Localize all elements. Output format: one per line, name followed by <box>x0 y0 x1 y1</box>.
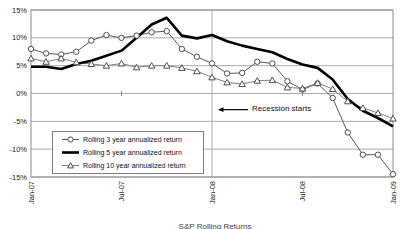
y-tick-label: 5% <box>16 61 27 70</box>
x-tick-label: Jul-07 <box>117 181 126 201</box>
data-point-marker-circle <box>43 51 48 56</box>
data-point-marker-circle <box>390 172 395 177</box>
data-point-marker-circle <box>270 61 275 66</box>
data-point-marker-triangle <box>209 74 215 80</box>
x-tick-label: Jul-08 <box>298 181 307 201</box>
data-point-marker-circle <box>179 46 184 51</box>
data-point-marker-circle <box>375 152 380 157</box>
legend-item-rolling-10-year: Rolling 10 year annualized return <box>62 159 203 172</box>
data-point-marker-circle <box>345 130 350 135</box>
x-tick-label: Jan-08 <box>208 181 217 204</box>
data-point-marker-circle <box>194 54 199 59</box>
legend-label: Rolling 5 year annualized return <box>83 146 182 159</box>
legend-item-rolling-5-year: Rolling 5 year annualized return <box>62 146 203 159</box>
data-point-marker-circle <box>164 28 169 33</box>
data-point-marker-triangle <box>329 86 335 92</box>
data-point-marker-circle <box>224 71 229 76</box>
x-tick-label: Jan-09 <box>389 181 398 204</box>
y-tick-label: 10% <box>12 33 27 42</box>
data-point-marker-circle <box>209 61 214 66</box>
data-point-marker-circle <box>149 30 154 35</box>
recession-arrow-head <box>218 107 224 112</box>
legend-item-rolling-3-year: Rolling 3 year annualized return <box>62 133 203 146</box>
data-point-marker-circle <box>239 70 244 75</box>
data-point-marker-circle <box>74 49 79 54</box>
y-tick-label: 0% <box>16 89 27 98</box>
chart-area: 15%10%5%0%-5%-10%-15%Jan-07Jul-07Jan-08J… <box>0 0 400 229</box>
y-tick-label: -10% <box>9 145 27 154</box>
data-point-marker-circle <box>104 32 109 37</box>
chart-caption: S&P Rolling Returns <box>150 222 280 229</box>
data-point-marker-circle <box>255 59 260 64</box>
data-point-marker-circle <box>285 79 290 84</box>
legend-label: Rolling 3 year annualized return <box>83 133 182 146</box>
x-tick-label: Jan-07 <box>27 181 36 204</box>
legend: Rolling 3 year annualized return Rolling… <box>52 131 204 174</box>
data-point-marker-circle <box>28 46 33 51</box>
y-tick-label: -15% <box>9 173 27 182</box>
data-point-marker-circle <box>330 95 335 100</box>
recession-annotation-label: Recession starts <box>252 104 311 113</box>
data-point-marker-circle <box>360 152 365 157</box>
data-point-marker-triangle <box>118 60 124 66</box>
triangle-marker-icon <box>62 161 79 170</box>
y-tick-label: 15% <box>12 6 27 15</box>
circle-marker-icon <box>62 135 79 144</box>
data-point-marker-circle <box>134 33 139 38</box>
thick-line-icon <box>62 148 79 157</box>
data-point-marker-triangle <box>28 55 34 61</box>
plot-svg: 15%10%5%0%-5%-10%-15%Jan-07Jul-07Jan-08J… <box>0 0 400 229</box>
legend-label: Rolling 10 year annualized return <box>83 159 186 172</box>
data-point-marker-circle <box>89 38 94 43</box>
data-point-marker-circle <box>119 35 124 40</box>
y-tick-label: -5% <box>14 117 28 126</box>
